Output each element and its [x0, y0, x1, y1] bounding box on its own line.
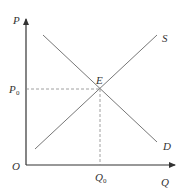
- price-equilibrium-label: P 0: [8, 83, 20, 97]
- x-axis-label: Q: [161, 176, 169, 188]
- y-axis-label: P: [12, 14, 20, 26]
- svg-text:0: 0: [103, 177, 107, 185]
- quantity-equilibrium-label: Q 0: [95, 171, 107, 185]
- svg-text:Q: Q: [95, 171, 103, 183]
- supply-label: S: [162, 32, 168, 44]
- origin-label: O: [12, 160, 20, 172]
- equilibrium-label: E: [95, 74, 103, 86]
- supply-demand-diagram: P Q O S D E P 0 Q 0: [0, 0, 183, 188]
- svg-text:P: P: [8, 83, 16, 95]
- svg-text:0: 0: [16, 89, 20, 97]
- supply-curve: [35, 35, 157, 149]
- demand-label: D: [162, 140, 171, 152]
